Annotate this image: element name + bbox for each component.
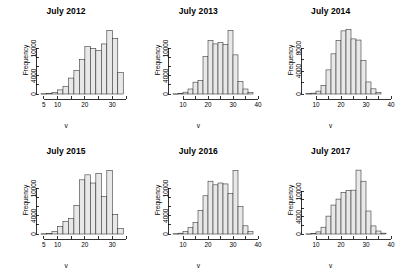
histogram-bar (193, 82, 198, 94)
histogram-bar (101, 197, 106, 234)
histogram-bar (203, 196, 208, 234)
plot-area: 04000100005102030 (0, 140, 132, 280)
histogram-bar (57, 90, 62, 94)
histogram-bar (228, 30, 233, 94)
histogram-panel-grid: July 2012Frequencyv04000100005102030July… (0, 0, 397, 280)
histogram-bar (63, 86, 68, 94)
histogram-bar (326, 216, 331, 234)
histogram-bar (336, 41, 341, 94)
histogram-bar (233, 170, 238, 234)
histogram-bar (376, 93, 381, 94)
histogram-bar (178, 93, 183, 94)
histogram-bar (336, 199, 341, 234)
histogram-bar (198, 80, 203, 94)
histogram-bar (243, 89, 248, 94)
histogram-bar (228, 193, 233, 234)
histogram-bar (341, 31, 346, 94)
x-tick-label: 30 (362, 241, 370, 248)
histogram-bar (183, 92, 188, 94)
histogram-bar (341, 192, 346, 234)
x-tick-label: 30 (230, 101, 238, 108)
bar-series (306, 30, 381, 94)
histogram-bar (248, 93, 253, 94)
x-tick-label: 20 (81, 241, 89, 248)
histogram-bar (90, 183, 95, 234)
histogram-bar (112, 38, 117, 94)
histogram-bar (381, 233, 386, 234)
plot-area: 040001000010203040 (132, 0, 264, 140)
x-tick-label: 10 (312, 241, 320, 248)
y-tick-label: 10000 (294, 182, 301, 200)
histogram-bar (238, 82, 243, 94)
histogram-bar (331, 54, 336, 94)
histogram-bar (52, 231, 57, 234)
y-tick-label: 10000 (30, 179, 37, 197)
histogram-bar (213, 44, 218, 94)
histogram-bar (316, 232, 321, 234)
plot-area: 040001000010203040 (265, 140, 397, 280)
x-axis-line (316, 236, 391, 239)
y-tick-label: 4000 (294, 63, 301, 78)
histogram-bar (366, 82, 371, 94)
histogram-panel: July 2014Frequencyv04000800010203040 (265, 0, 397, 140)
histogram-bar (316, 91, 321, 94)
y-tick-label: 0 (162, 232, 169, 236)
x-axis-line (183, 236, 258, 239)
x-tick-label: 40 (387, 241, 395, 248)
histogram-bar (46, 93, 51, 94)
bar-series (306, 170, 386, 234)
histogram-bar (371, 89, 376, 94)
x-tick-label: 20 (205, 241, 213, 248)
histogram-bar (223, 44, 228, 94)
histogram-bar (248, 232, 253, 234)
y-tick-label: 4000 (162, 208, 169, 223)
plot-area: 040001000010203040 (132, 140, 264, 280)
histogram-bar (203, 57, 208, 94)
histogram-bar (79, 180, 84, 234)
x-tick-label: 10 (180, 241, 188, 248)
histogram-bar (46, 233, 51, 234)
histogram-bar (188, 89, 193, 94)
histogram-bar (74, 205, 79, 234)
histogram-bar (218, 43, 223, 94)
histogram-bar (52, 92, 57, 94)
histogram-panel: July 2012Frequencyv04000100005102030 (0, 0, 132, 140)
x-tick-label: 40 (255, 241, 263, 248)
y-tick-label: 4000 (30, 208, 37, 223)
bar-series (41, 30, 123, 94)
histogram-bar (96, 173, 101, 234)
histogram-bar (233, 55, 238, 94)
histogram-bar (101, 44, 106, 94)
x-tick-label: 20 (205, 101, 213, 108)
histogram-panel: July 2016Frequencyv040001000010203040 (132, 140, 264, 280)
histogram-bar (356, 40, 361, 94)
x-axis-line (44, 236, 126, 239)
histogram-bar (118, 73, 123, 94)
x-tick-label: 10 (54, 241, 62, 248)
histogram-bar (376, 231, 381, 234)
y-tick-label: 4000 (162, 68, 169, 83)
histogram-bar (356, 170, 361, 234)
histogram-bar (208, 40, 213, 94)
histogram-bar (68, 219, 73, 234)
histogram-bar (346, 191, 351, 234)
histogram-bar (326, 70, 331, 94)
histogram-bar (193, 223, 198, 234)
y-tick-label: 10000 (162, 179, 169, 197)
histogram-bar (218, 183, 223, 234)
histogram-bar (351, 39, 356, 94)
x-tick-label: 30 (109, 101, 117, 108)
histogram-bar (107, 30, 112, 94)
histogram-bar (85, 47, 90, 94)
histogram-bar (311, 93, 316, 94)
histogram-bar (57, 227, 62, 234)
histogram-panel: July 2015Frequencyv04000100005102030 (0, 140, 132, 280)
histogram-bar (331, 205, 336, 234)
histogram-bar (79, 59, 84, 94)
histogram-bar (311, 233, 316, 234)
y-tick-label: 0 (162, 92, 169, 96)
histogram-panel: July 2017Frequencyv040001000010203040 (265, 140, 397, 280)
histogram-bar (361, 181, 366, 234)
x-tick-label: 30 (362, 101, 370, 108)
x-tick-label: 20 (337, 101, 345, 108)
